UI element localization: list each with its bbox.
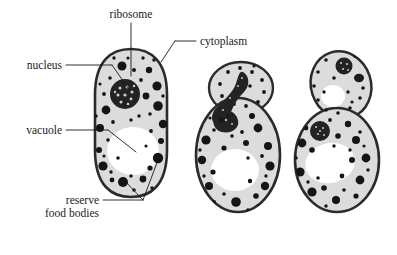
vacuole-middle xyxy=(211,149,259,191)
label-reserve: reserve xyxy=(66,194,99,206)
yeast-cell-diagram: ribosome cytoplasm nucleus vacuole reser… xyxy=(0,0,397,255)
label-ribosome: ribosome xyxy=(110,8,153,20)
diagram-canvas: ribosome cytoplasm nucleus vacuole reser… xyxy=(0,0,397,255)
label-cytoplasm: cytoplasm xyxy=(200,35,247,48)
leader-cytoplasm-d xyxy=(161,41,175,62)
granule-large-daughter xyxy=(354,74,364,82)
nucleus-daughter xyxy=(336,58,353,75)
cell-late-budding xyxy=(294,43,380,212)
cell-budding xyxy=(196,62,280,212)
label-food-bodies: food bodies xyxy=(45,207,100,219)
label-nucleus: nucleus xyxy=(27,59,63,71)
vacuole-daughter xyxy=(321,85,345,107)
label-vacuole: vacuole xyxy=(26,124,62,136)
